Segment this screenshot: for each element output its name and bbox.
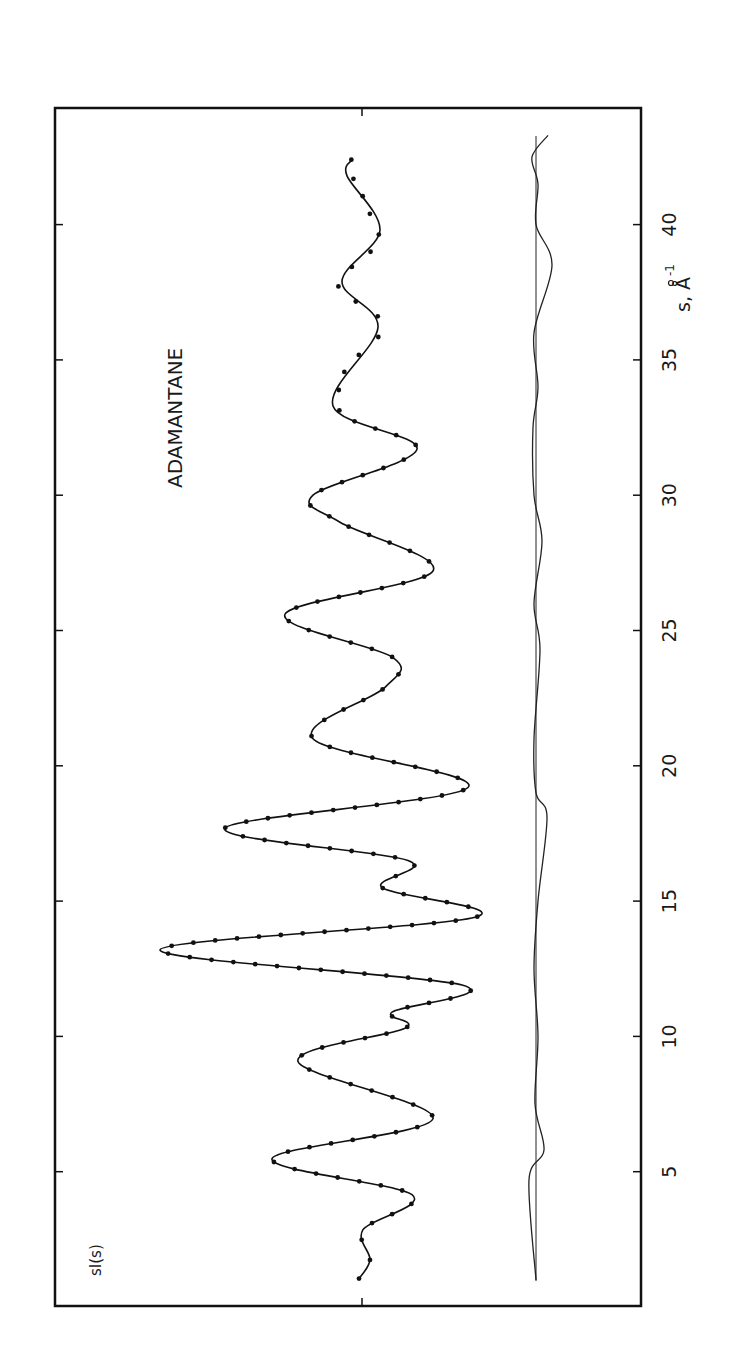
data-point xyxy=(297,966,302,971)
tick-label: 15 xyxy=(658,889,680,913)
tick-label: 35 xyxy=(658,348,680,372)
tick-label: 20 xyxy=(658,754,680,778)
data-point xyxy=(394,1130,399,1135)
data-point xyxy=(348,1082,353,1087)
data-point xyxy=(390,1212,395,1217)
data-point xyxy=(461,788,466,793)
data-point xyxy=(307,1067,312,1072)
data-point xyxy=(380,886,385,891)
chart-title: ADAMANTANE xyxy=(163,348,187,488)
data-point xyxy=(336,284,341,289)
data-point xyxy=(367,532,372,537)
data-point xyxy=(406,975,411,980)
data-point xyxy=(309,734,314,739)
tick-label: 40 xyxy=(658,213,680,237)
data-point xyxy=(432,921,437,926)
data-point xyxy=(408,548,413,553)
tick-label: 25 xyxy=(658,618,680,642)
data-point xyxy=(241,834,246,839)
data-point xyxy=(455,775,460,780)
data-point xyxy=(329,1141,334,1146)
data-point xyxy=(366,926,371,931)
data-point xyxy=(169,943,174,948)
data-point xyxy=(357,1276,362,1281)
data-point xyxy=(427,559,432,564)
data-point xyxy=(287,813,292,818)
data-point xyxy=(244,819,249,824)
data-point xyxy=(327,1075,332,1080)
data-point xyxy=(466,904,471,909)
data-point xyxy=(337,408,342,413)
data-point xyxy=(378,1183,383,1188)
data-point xyxy=(390,1014,395,1019)
data-point xyxy=(444,900,449,905)
data-point xyxy=(187,955,192,960)
data-point xyxy=(401,457,406,462)
data-point xyxy=(319,488,324,493)
data-point xyxy=(331,808,336,813)
data-point xyxy=(318,967,323,972)
data-point xyxy=(327,634,332,639)
data-point xyxy=(337,594,342,599)
data-point xyxy=(376,335,381,340)
data-point xyxy=(309,810,314,815)
data-point xyxy=(394,433,399,438)
data-point xyxy=(253,962,258,967)
data-point xyxy=(396,800,401,805)
data-point xyxy=(275,964,280,969)
data-point xyxy=(294,605,299,610)
data-point xyxy=(375,314,380,319)
data-point xyxy=(340,480,345,485)
data-point xyxy=(401,581,406,586)
data-point xyxy=(363,1036,368,1041)
data-point xyxy=(384,973,389,978)
x-axis-unit: Å xyxy=(672,277,694,290)
data-point xyxy=(373,426,378,431)
x-axis-label: s, Å -1 xyxy=(663,264,694,312)
data-point xyxy=(390,655,395,660)
x-axis-ticks: 510152025303540 xyxy=(55,213,680,1178)
data-point xyxy=(370,755,375,760)
data-point xyxy=(391,760,396,765)
adamantane-chart: 510152025303540 ADAMANTANE sI(s) s, Å -1 xyxy=(0,0,736,1369)
data-point xyxy=(223,825,228,830)
data-point xyxy=(262,838,267,843)
data-point xyxy=(422,574,427,579)
data-point xyxy=(352,419,357,424)
data-point xyxy=(393,874,398,879)
data-point xyxy=(284,841,289,846)
data-point xyxy=(353,805,358,810)
data-point xyxy=(475,914,480,919)
data-point xyxy=(376,232,381,237)
data-point xyxy=(315,599,320,604)
data-point xyxy=(292,1167,297,1172)
data-point xyxy=(308,503,313,508)
data-point xyxy=(351,176,356,181)
data-point xyxy=(405,1005,410,1010)
data-point xyxy=(358,590,363,595)
data-point xyxy=(322,717,327,722)
data-point xyxy=(390,1095,395,1100)
data-point xyxy=(396,672,401,677)
data-point xyxy=(348,640,353,645)
data-point xyxy=(380,687,385,692)
data-point xyxy=(359,1237,364,1242)
data-point xyxy=(346,524,351,529)
data-point xyxy=(286,1149,291,1154)
data-point xyxy=(468,988,473,993)
data-point xyxy=(384,1031,389,1036)
tick-label: 5 xyxy=(658,1166,680,1178)
data-point xyxy=(336,388,341,393)
data-point xyxy=(361,698,366,703)
y-axis-label: sI(s) xyxy=(87,1244,105,1276)
data-point xyxy=(272,1160,277,1165)
data-point xyxy=(362,971,367,976)
data-point xyxy=(349,157,354,162)
data-point xyxy=(401,892,406,897)
data-point xyxy=(413,443,418,448)
data-point xyxy=(306,843,311,848)
data-point xyxy=(449,981,454,986)
data-point xyxy=(368,1258,373,1263)
data-point xyxy=(335,1175,340,1180)
data-point xyxy=(360,194,365,199)
